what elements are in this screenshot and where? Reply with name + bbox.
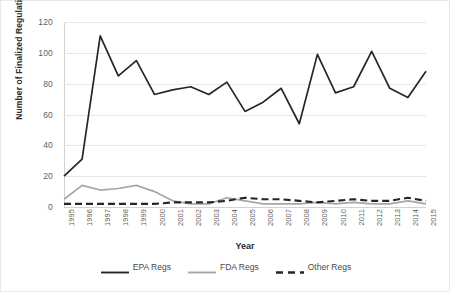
legend-swatch-icon [188,263,216,272]
x-axis-tick-label: 2011 [357,209,366,226]
y-axis-tick-label: 40 [43,140,53,150]
x-axis-tick-label: 2004 [230,209,239,226]
x-axis-tick-label: 1997 [103,209,112,226]
x-axis-title: Year [64,241,426,251]
legend-item[interactable]: EPA Regs [101,262,171,272]
chart-figure: Number of Finalized Regulations 02040608… [0,0,450,292]
x-axis-tick-label: 1995 [67,209,76,226]
chart-legend: EPA RegsFDA RegsOther Regs [1,262,450,272]
x-axis-tick-label: 2010 [339,209,348,226]
legend-item[interactable]: Other Regs [276,262,351,272]
y-axis-tick-label: 60 [43,110,53,120]
x-axis-tick-label: 1999 [139,209,148,226]
y-axis-tick-labels: 020406080100120 [1,22,59,207]
y-axis-tick-label: 100 [38,48,53,58]
x-axis-tick-label: 2014 [411,209,420,226]
x-axis-tick-label: 2015 [429,209,438,226]
x-axis-tick-label: 2003 [212,209,221,226]
x-axis-tick-label: 2008 [302,209,311,226]
x-axis-tick-label: 2001 [176,209,185,226]
x-axis-tick-label: 2005 [248,209,257,226]
x-axis-tick-label: 2007 [284,209,293,226]
y-axis-tick-label: 0 [48,202,53,212]
x-axis-tick-label: 2012 [375,209,384,226]
series-line-epa-regs [64,36,426,176]
x-axis-tick-label: 2013 [393,209,402,226]
gridline [64,207,426,208]
y-axis-tick-label: 80 [43,79,53,89]
legend-swatch-icon [101,263,129,272]
legend-item[interactable]: FDA Regs [188,262,259,272]
x-axis-tick-label: 2009 [320,209,329,226]
series-lines [64,22,426,207]
x-axis-tick-label: 1996 [85,209,94,226]
x-axis-tick-label: 1998 [121,209,130,226]
x-axis-tick-label: 2006 [266,209,275,226]
y-axis-tick-label: 120 [38,17,53,27]
legend-swatch-icon [276,263,304,272]
legend-label: Other Regs [308,262,351,272]
x-axis-tick-label: 2000 [158,209,167,226]
legend-label: EPA Regs [133,262,171,272]
legend-label: FDA Regs [220,262,259,272]
x-axis-tick-labels: 1995199619971998199920002001200220032004… [64,209,426,239]
x-axis-tick-label: 2002 [194,209,203,226]
y-axis-tick-label: 20 [43,171,53,181]
plot-area [64,22,426,207]
